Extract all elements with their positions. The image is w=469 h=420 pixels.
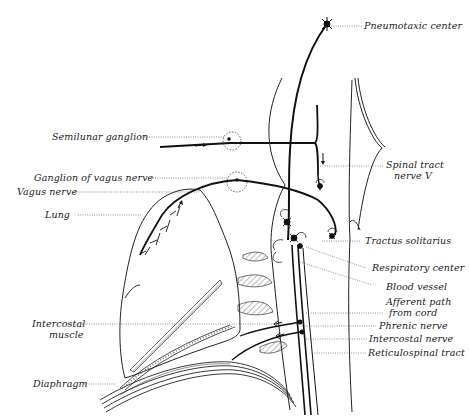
ribs [238, 252, 287, 353]
synapse-loops [273, 179, 337, 262]
label-intercostal-nerve: Intercostal nerve [369, 333, 453, 344]
vagus-ganglion-circle [227, 172, 247, 192]
label-spinal-tract-nerve-v-line2: nerve V [394, 170, 432, 181]
label-pneumotaxic-center: Pneumotaxic center [364, 20, 462, 31]
label-intercostal-muscle-line1: Intercostal [32, 318, 85, 329]
spinal-cord-tracts [292, 245, 318, 415]
respiratory-center-cells [283, 184, 335, 249]
intercostal-phrenic-fibers [232, 322, 300, 360]
label-phrenic-nerve: Phrenic nerve [379, 320, 448, 331]
vagus-nerve-pathway [140, 180, 336, 255]
lung-bronchial-branches [140, 206, 180, 255]
leader-lines [66, 26, 384, 384]
label-reticulospinal-tract: Reticulospinal tract [368, 347, 465, 358]
label-afferent-path-line2: from cord [389, 307, 437, 318]
label-vagus-nerve: Vagus nerve [17, 186, 77, 197]
semilunar-ganglion-circle [223, 132, 241, 150]
respiratory-control-diagram: Pneumotaxic center Semilunar ganglion Ga… [0, 0, 469, 420]
label-spinal-tract-nerve-v-line1: Spinal tract [386, 159, 444, 170]
lung-fissure [130, 280, 222, 372]
label-blood-vessel: Blood vessel [386, 281, 447, 292]
trigeminal-pathway [160, 105, 320, 190]
label-afferent-path-line1: Afferent path [386, 296, 451, 307]
label-lung: Lung [45, 209, 70, 220]
label-respiratory-center: Respiratory center [372, 262, 464, 273]
label-intercostal-muscle-line2: muscle [49, 329, 84, 340]
diaphragm [100, 362, 296, 412]
label-tractus-solitarius: Tractus solitarius [365, 235, 451, 246]
label-diaphragm: Diaphragm [33, 378, 88, 389]
label-semilunar-ganglion: Semilunar ganglion [52, 131, 148, 142]
label-ganglion-of-vagus-nerve: Ganglion of vagus nerve [34, 172, 153, 183]
